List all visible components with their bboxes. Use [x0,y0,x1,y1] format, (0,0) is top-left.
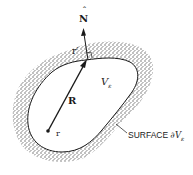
volume-label-sub: ε [108,82,111,89]
normal-arrowhead [81,28,86,36]
surface-leader-line [116,124,127,133]
volume-label: Vε [101,77,111,89]
diagram-canvas: ˆ N r′ Vε R r SURFACE ∂Vε [0,0,193,175]
surface-label-sub: ε [181,135,184,142]
surface-label-text: SURFACE [128,130,171,140]
diagram-graphic [0,0,193,175]
origin-point-dot [46,129,50,133]
surface-label: SURFACE ∂Vε [128,131,184,142]
surface-point-label: r′ [72,47,78,56]
normal-label: N [79,14,88,24]
surface-label-symbol: ∂V [171,130,182,140]
origin-point-label: r [56,130,60,138]
vector-label: R [68,96,76,106]
